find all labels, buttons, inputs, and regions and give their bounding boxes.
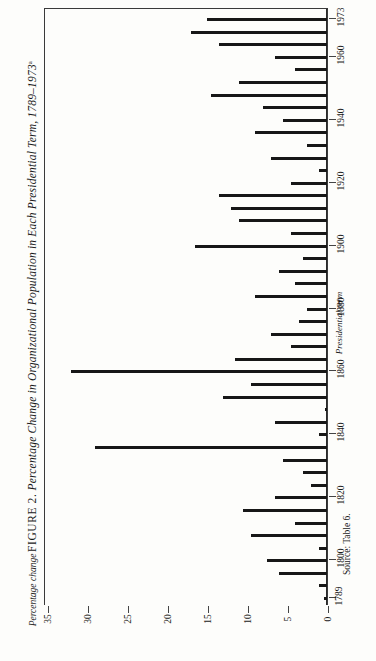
year-tick-label: 1920 (336, 158, 346, 204)
bar (95, 446, 327, 449)
bar (219, 194, 327, 197)
bar (319, 547, 327, 550)
bar (307, 144, 327, 147)
bar (295, 282, 327, 285)
value-axis-title: Percentage change (28, 535, 38, 645)
bar (251, 383, 327, 386)
bar (243, 509, 327, 512)
bar (271, 157, 327, 160)
bar (299, 320, 327, 323)
bar (295, 68, 327, 71)
year-tick-mark (329, 370, 336, 371)
bar (303, 257, 327, 260)
bar (283, 119, 327, 122)
bar (311, 484, 327, 487)
year-tick-mark (329, 18, 336, 19)
bar (283, 459, 327, 462)
bar (235, 358, 327, 361)
value-tick-label: 0 (323, 606, 333, 632)
value-tick-label: 20 (163, 606, 173, 632)
bar (251, 534, 327, 537)
value-tick-label: 5 (283, 606, 293, 632)
bar (291, 182, 327, 185)
bar (279, 572, 327, 575)
bar (319, 584, 327, 587)
bar (231, 207, 327, 210)
bar (219, 43, 327, 46)
bar (275, 496, 327, 499)
bar (223, 396, 327, 399)
figure-caption-text: Percentage Change in Organizational Popu… (26, 64, 38, 490)
bar (303, 471, 327, 474)
year-tick-label: 1960 (336, 32, 346, 78)
figure-caption: FIGURE 2. Percentage Change in Organizat… (26, 26, 39, 586)
bar (279, 270, 327, 273)
bar (207, 18, 327, 21)
plot-area (44, 8, 328, 605)
value-tick-label: 15 (203, 606, 213, 632)
bar (195, 245, 327, 248)
bar (71, 370, 327, 373)
bar (239, 81, 327, 84)
year-tick-mark (329, 245, 336, 246)
bar (295, 522, 327, 525)
year-tick-label: 1789 (334, 573, 344, 619)
bar (291, 345, 327, 348)
year-tick-label: 1900 (336, 221, 346, 267)
year-tick-label: 1880 (336, 284, 346, 330)
year-tick-label: 1840 (336, 409, 346, 455)
year-tick-label: 1860 (336, 346, 346, 392)
year-tick-mark (329, 496, 336, 497)
bar (319, 433, 327, 436)
year-tick-mark (329, 559, 336, 560)
year-tick-mark (329, 308, 336, 309)
footnote-marker: a (26, 61, 34, 64)
bar (263, 106, 327, 109)
bar (319, 169, 327, 172)
bar (271, 333, 327, 336)
year-tick-label: 1940 (336, 95, 346, 141)
value-tick-label: 10 (243, 606, 253, 632)
bar (324, 597, 327, 600)
bar (267, 559, 327, 562)
bar (325, 408, 327, 411)
value-tick-label: 30 (83, 606, 93, 632)
year-tick-mark (329, 433, 336, 434)
bar (211, 94, 327, 97)
bar (255, 131, 327, 134)
bar (307, 308, 327, 311)
year-tick-label: 1820 (336, 472, 346, 518)
value-tick-label: 25 (123, 606, 133, 632)
year-tick-mark (329, 56, 336, 57)
bar (291, 232, 327, 235)
year-tick-mark (329, 182, 336, 183)
bar (239, 219, 327, 222)
bar (255, 295, 327, 298)
bar (275, 56, 327, 59)
year-tick-mark (329, 119, 336, 120)
bar (275, 421, 327, 424)
value-tick-label: 35 (43, 606, 53, 632)
bar (191, 31, 327, 34)
